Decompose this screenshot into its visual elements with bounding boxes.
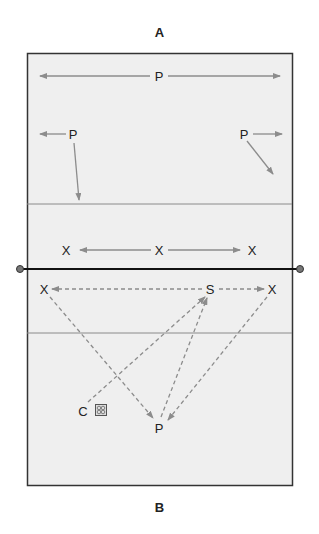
hitter-left: X — [40, 282, 49, 297]
setter: S — [206, 282, 215, 297]
passer: P — [155, 421, 164, 436]
side-a-label: A — [155, 25, 165, 40]
blocker-right: X — [248, 243, 257, 258]
blocker-middle: X — [155, 243, 164, 258]
player-top-left: P — [69, 127, 78, 142]
hitter-right: X — [268, 282, 277, 297]
net-post-right — [297, 266, 304, 273]
player-top-right: P — [240, 127, 249, 142]
net-post-left — [17, 266, 24, 273]
side-b-label: B — [155, 500, 164, 515]
player-top-center: P — [155, 69, 164, 84]
volleyball-court-diagram: A B P P P X X X X S X C P — [0, 0, 319, 534]
blocker-left: X — [62, 243, 71, 258]
coach: C — [78, 404, 87, 419]
volleyball-cart-icon — [96, 405, 107, 416]
